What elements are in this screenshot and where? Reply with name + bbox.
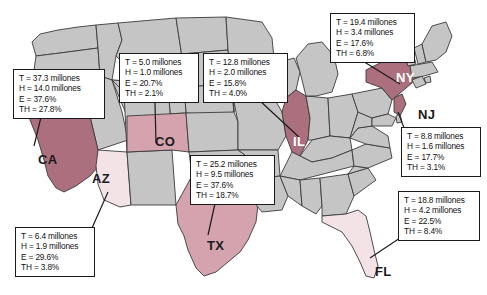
state-fl [322,210,378,278]
callout-tx-hispanic: H = 9.5 millones [196,169,269,179]
state-label-ca: CA [38,152,57,167]
callout-ca-total: T = 37.3 millones [19,73,99,83]
callout-ut-e-percent: E = 20.7% [125,78,193,88]
callout-fl-total: T = 18.8 millones [404,195,474,205]
callout-fl-e-percent: E = 22.5% [404,216,474,226]
leader-line-fl [370,238,400,258]
state-label-fl: FL [375,264,391,279]
callout-ny-e-percent: E = 17.6% [336,38,409,48]
callout-ut-th-percent: TH = 2.1% [125,88,193,98]
callout-il-e-percent: E = 15.8% [209,78,282,88]
state-label-tx: TX [207,238,224,253]
state-nm [127,150,176,205]
callout-nj-total: T = 8.8 millones [407,131,475,141]
state-nj [394,94,406,116]
state-mo [234,98,286,150]
callout-ny-th-percent: TH = 6.8% [336,48,409,58]
state-label-il: IL [293,134,305,149]
callout-tx-th-percent: TH = 18.7% [196,190,269,200]
callout-tx-e-percent: E = 37.6% [196,180,269,190]
callout-nj-hispanic: H = 1.6 millones [407,141,475,151]
callout-az-total: T = 6.4 millones [21,231,89,241]
state-label-co: CO [155,134,175,149]
state-me [422,22,452,62]
state-al [300,178,322,214]
callout-az-hispanic: H = 1.9 millones [21,241,89,251]
callout-california[interactable]: T = 37.3 millones H = 14.0 millones E = … [13,69,105,119]
callout-fl-th-percent: TH = 8.4% [404,226,474,236]
leader-line-az [92,192,108,228]
callout-az-e-percent: E = 29.6% [21,252,89,262]
callout-ut-total: T = 5.0 millones [125,57,193,67]
us-map-infographic: .st{stroke:#3a3a3a;stroke-width:0.9;stro… [0,0,487,295]
callout-nj-th-percent: TH = 3.1% [407,162,475,172]
state-ks [186,112,238,152]
callout-il-total: T = 12.8 millones [209,57,282,67]
callout-il-hispanic: H = 2.0 millones [209,67,282,77]
callout-tx-total: T = 25.2 millones [196,159,269,169]
callout-illinois[interactable]: T = 12.8 millones H = 2.0 millones E = 1… [203,53,288,103]
state-ga [320,174,354,216]
callout-az-th-percent: TH = 3.8% [21,262,89,272]
callout-ca-hispanic: H = 14.0 millones [19,83,99,93]
callout-utah[interactable]: T = 5.0 millones H = 1.0 millones E = 20… [119,53,199,103]
state-label-ny: NY [396,70,415,85]
callout-ca-e-percent: E = 37.6% [19,94,99,104]
callout-il-th-percent: TH = 4.0% [209,88,282,98]
callout-florida[interactable]: T = 18.8 millones H = 4.2 millones E = 2… [398,191,480,241]
state-label-nj: NJ [418,107,435,122]
callout-arizona[interactable]: T = 6.4 millones H = 1.9 millones E = 29… [15,227,95,277]
callout-ny-hispanic: H = 3.4 millones [336,27,409,37]
callout-texas[interactable]: T = 25.2 millones H = 9.5 millones E = 3… [190,155,275,205]
callout-ca-th-percent: TH = 27.8% [19,104,99,114]
callout-ut-hispanic: H = 1.0 millones [125,67,193,77]
state-label-az: AZ [92,171,110,186]
callout-nj-e-percent: E = 17.7% [407,152,475,162]
callout-ny-total: T = 19.4 millones [336,17,409,27]
callout-fl-hispanic: H = 4.2 millones [404,205,474,215]
callout-newyork[interactable]: T = 19.4 millones H = 3.4 millones E = 1… [330,13,415,63]
state-in [306,96,330,140]
callout-newjersey[interactable]: T = 8.8 millones H = 1.6 millones E = 17… [401,127,481,177]
